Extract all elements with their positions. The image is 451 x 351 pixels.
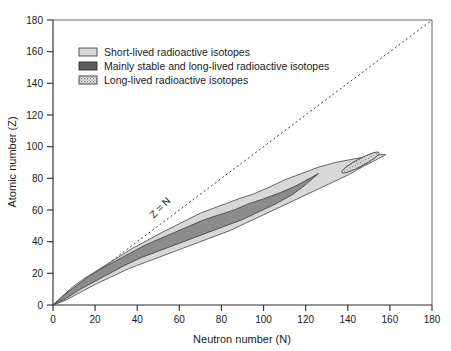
x-axis-title: Neutron number (N)	[193, 333, 291, 345]
x-tick-label: 60	[174, 314, 186, 325]
legend-label: Mainly stable and long-lived radioactive…	[104, 60, 329, 72]
x-tick-label: 0	[50, 314, 56, 325]
y-tick-label: 180	[26, 15, 43, 26]
x-tick-label: 20	[90, 314, 102, 325]
x-axis-ticks	[53, 305, 432, 311]
y-axis-ticks	[47, 20, 53, 305]
y-tick-label: 80	[32, 173, 44, 184]
x-tick-label: 180	[424, 314, 441, 325]
legend-item-short-lived: Short-lived radioactive isotopes	[79, 46, 250, 58]
stippled-swatch	[79, 76, 97, 84]
y-tick-label: 0	[37, 300, 43, 311]
x-tick-label: 140	[339, 314, 356, 325]
x-tick-label: 100	[255, 314, 272, 325]
nuclide-chart-figure: 0 20 40 60 80 100 120 140 160 180 0 20 4…	[0, 0, 451, 351]
legend-label: Long-lived radioactive isotopes	[104, 74, 248, 86]
y-axis-title: Atomic number (Z)	[6, 116, 18, 207]
legend-item-long-lived: Long-lived radioactive isotopes	[79, 74, 248, 86]
light-gray-swatch	[79, 48, 97, 56]
dark-gray-swatch	[79, 62, 97, 70]
x-tick-label: 160	[382, 314, 399, 325]
y-tick-label: 140	[26, 78, 43, 89]
y-tick-label: 160	[26, 46, 43, 57]
legend-item-mainly-stable: Mainly stable and long-lived radioactive…	[79, 60, 329, 72]
x-tick-label: 120	[297, 314, 314, 325]
y-tick-label: 100	[26, 141, 43, 152]
x-axis-tick-labels: 0 20 40 60 80 100 120 140 160 180	[50, 314, 441, 325]
y-tick-label: 120	[26, 110, 43, 121]
x-tick-label: 80	[216, 314, 228, 325]
y-axis-tick-labels: 0 20 40 60 80 100 120 140 160 180	[26, 15, 43, 311]
x-tick-label: 40	[132, 314, 144, 325]
y-tick-label: 20	[32, 268, 44, 279]
y-tick-label: 60	[32, 205, 44, 216]
legend-label: Short-lived radioactive isotopes	[104, 46, 250, 58]
y-tick-label: 40	[32, 236, 44, 247]
